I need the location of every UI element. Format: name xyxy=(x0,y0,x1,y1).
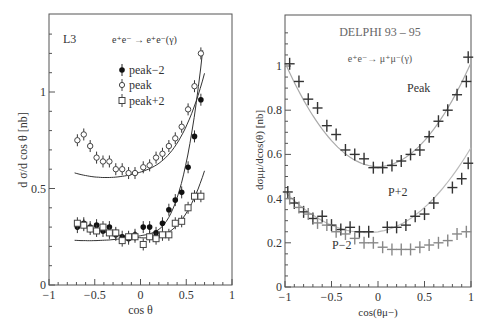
data-point xyxy=(106,230,112,236)
svg-text:peak: peak xyxy=(129,78,152,92)
data-point xyxy=(153,155,158,160)
fit-curve xyxy=(285,63,471,167)
data-point xyxy=(179,190,185,196)
data-point xyxy=(132,170,137,175)
legend-item-peak: peak xyxy=(119,78,151,92)
data-point xyxy=(100,224,106,230)
data-point xyxy=(185,205,191,211)
right-process-label: e⁺e⁻→ μ⁺μ⁻(γ) xyxy=(348,53,412,65)
left-process-label: e⁺e⁻ → e⁺e⁻(γ) xyxy=(112,34,177,46)
data-point xyxy=(87,226,93,232)
data-point xyxy=(153,236,159,242)
right-label-peak: Peak xyxy=(407,81,430,95)
open-square-icon xyxy=(119,98,125,104)
y-tick-label: 0 xyxy=(40,278,46,292)
left-panel: −1−0.500.5100.51 L3 e⁺e⁻ → e⁺e⁻(γ) peak−… xyxy=(16,14,235,317)
data-point xyxy=(140,241,146,247)
data-point xyxy=(179,218,185,224)
open-circle-icon xyxy=(119,82,124,87)
data-point xyxy=(113,230,119,236)
data-point xyxy=(126,170,131,175)
x-tick-label: 1 xyxy=(468,290,474,304)
data-point xyxy=(75,138,80,143)
x-tick-label: −0.5 xyxy=(321,290,343,304)
right-experiment-label: DELPHI 93 – 95 xyxy=(339,25,421,39)
data-point xyxy=(100,159,105,164)
data-point xyxy=(166,143,171,148)
data-point xyxy=(159,232,165,238)
data-point xyxy=(166,207,172,213)
data-point xyxy=(173,136,178,141)
legend-item-peak-plus-2: peak+2 xyxy=(119,94,164,108)
right-y-axis-label: dσμμ/dcos(θ) [nb] xyxy=(253,110,266,190)
data-point xyxy=(192,134,198,140)
left-x-axis-label: cos θ xyxy=(128,303,153,317)
left-experiment-label: L3 xyxy=(63,32,76,46)
filled-circle-icon xyxy=(119,67,125,73)
data-point xyxy=(94,228,100,234)
data-point xyxy=(172,220,178,226)
figure: −1−0.500.5100.51 L3 e⁺e⁻ → e⁺e⁻(γ) peak−… xyxy=(0,0,485,330)
svg-text:peak−2: peak−2 xyxy=(129,63,164,77)
data-point xyxy=(185,107,190,112)
x-tick-label: 0.5 xyxy=(179,288,194,302)
svg-text:peak+2: peak+2 xyxy=(129,94,164,108)
data-point xyxy=(107,159,112,164)
data-point xyxy=(147,234,153,240)
data-point xyxy=(160,220,166,226)
data-point xyxy=(141,165,146,170)
y-tick-label: 1 xyxy=(40,85,46,99)
x-tick-label: 1 xyxy=(229,288,235,302)
right-axis-ticks: −1−0.500.5100.20.40.60.81 xyxy=(267,33,474,304)
data-point xyxy=(81,222,87,228)
y-tick-label: 0.6 xyxy=(267,147,282,161)
x-tick-label: −0.5 xyxy=(84,288,106,302)
right-data-series xyxy=(283,51,473,255)
y-tick-label: 1 xyxy=(276,59,282,73)
data-point xyxy=(140,224,146,230)
data-point xyxy=(179,124,184,129)
y-tick-label: 0.8 xyxy=(267,103,282,117)
right-label-p-minus-2: P−2 xyxy=(332,238,351,252)
data-point xyxy=(185,164,191,170)
data-point xyxy=(126,234,132,240)
data-point xyxy=(147,224,153,230)
data-point xyxy=(160,151,165,156)
x-tick-label: 0.5 xyxy=(417,290,432,304)
data-point xyxy=(94,155,99,160)
data-point xyxy=(166,232,172,238)
data-point xyxy=(74,220,80,226)
y-tick-label: 0 xyxy=(276,280,282,294)
right-x-axis-label: cos(θμ−) xyxy=(358,306,398,319)
data-point xyxy=(198,193,204,199)
data-point xyxy=(198,97,204,103)
y-tick-label: 0.4 xyxy=(267,192,282,206)
data-point xyxy=(172,197,178,203)
left-y-axis-label: d σ/d cos θ [nb] xyxy=(16,112,30,188)
data-point xyxy=(120,167,125,172)
data-point xyxy=(191,193,197,199)
data-point xyxy=(81,132,86,137)
data-point xyxy=(132,234,138,240)
legend-item-peak-minus-2: peak−2 xyxy=(119,63,164,77)
data-point xyxy=(147,163,152,168)
left-legend: peak−2 peak peak+2 xyxy=(119,63,164,108)
y-tick-label: 0.2 xyxy=(267,236,282,250)
y-tick-label: 0.5 xyxy=(31,182,46,196)
data-point xyxy=(119,238,125,244)
data-point xyxy=(113,167,118,172)
data-point xyxy=(198,51,203,56)
data-point xyxy=(192,84,197,89)
x-tick-label: 0 xyxy=(138,288,144,302)
right-label-p-plus-2: P+2 xyxy=(388,185,407,199)
right-panel: −1−0.500.5100.20.40.60.81 DELPHI 93 – 95… xyxy=(253,15,474,319)
x-tick-label: 0 xyxy=(375,290,381,304)
data-point xyxy=(87,143,92,148)
